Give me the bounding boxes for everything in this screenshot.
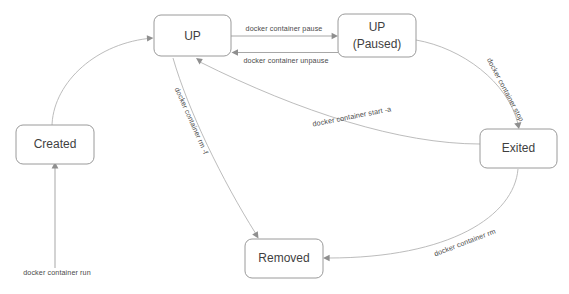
edge-created-to-up xyxy=(52,35,154,127)
edge-start-a-curve xyxy=(200,62,480,144)
edge-docker-container-unpause: docker container unpause xyxy=(232,49,339,65)
edge-label-rm: docker container rm xyxy=(433,227,497,259)
edge-docker-container-start-a: docker container start -a xyxy=(196,58,480,144)
edge-docker-container-rm: docker container rm xyxy=(323,169,518,261)
node-up[interactable]: UP xyxy=(154,15,231,56)
arrowhead-stop xyxy=(514,122,521,129)
node-created-label: Created xyxy=(34,137,77,151)
node-created[interactable]: Created xyxy=(16,125,94,164)
edge-docker-container-rm-f: docker container rm -f xyxy=(173,58,259,239)
node-up-paused-label-line2: (Paused) xyxy=(353,37,402,51)
edge-docker-container-run: docker container run xyxy=(23,162,91,277)
edge-docker-container-stop: docker container stop xyxy=(416,40,526,129)
edge-label-pause: docker container pause xyxy=(246,24,323,33)
node-removed[interactable]: Removed xyxy=(245,239,323,278)
node-removed-label: Removed xyxy=(258,251,309,265)
edge-label-run: docker container run xyxy=(23,268,91,277)
edge-label-stop: docker container stop xyxy=(485,56,526,123)
arrowhead-unpause xyxy=(232,49,239,55)
edge-docker-container-pause: docker container pause xyxy=(231,24,338,39)
arrowhead-created-up xyxy=(147,35,154,41)
node-up-label: UP xyxy=(184,29,201,43)
arrowhead-rm xyxy=(323,255,330,261)
edge-label-rm-f: docker container rm -f xyxy=(173,86,211,156)
edge-label-start-a: docker container start -a xyxy=(312,104,392,128)
node-up-paused-label-line1: UP xyxy=(369,20,386,34)
state-diagram-canvas: docker container run docker container pa… xyxy=(0,0,569,294)
docker-lifecycle-diagram: docker container run docker container pa… xyxy=(0,0,569,294)
edge-rm-f-curve xyxy=(173,58,256,234)
edge-rm-curve xyxy=(328,169,518,258)
node-exited[interactable]: Exited xyxy=(480,129,557,168)
node-up-paused[interactable]: UP (Paused) xyxy=(338,14,416,57)
node-exited-label: Exited xyxy=(502,141,535,155)
arrowhead-start-a xyxy=(196,58,203,65)
arrowhead-pause xyxy=(332,33,338,39)
edge-created-up-curve xyxy=(52,39,148,128)
edge-label-unpause: docker container unpause xyxy=(243,56,328,65)
